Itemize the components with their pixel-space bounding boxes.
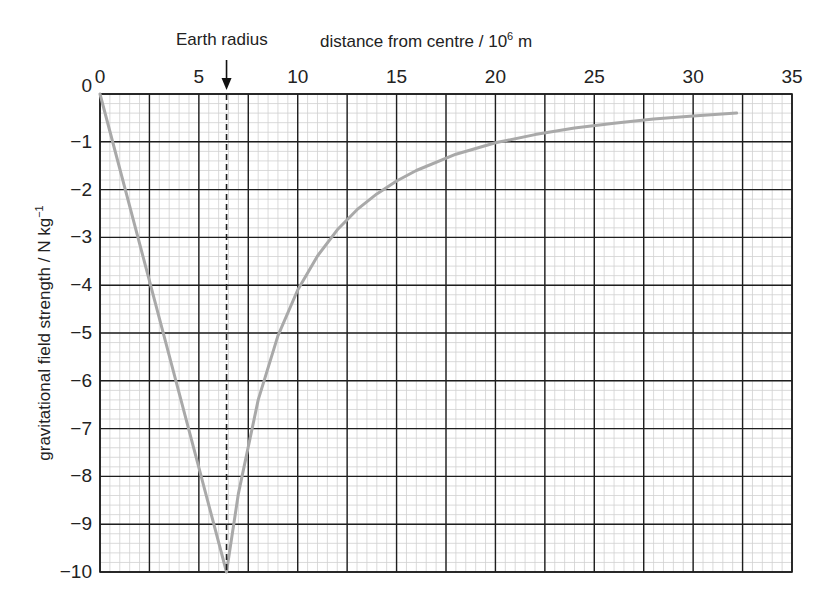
y-tick-label: −6	[32, 370, 92, 392]
x-tick-label: 30	[683, 66, 704, 88]
x-tick-label: 35	[781, 66, 802, 88]
x-tick-label: 15	[386, 66, 407, 88]
x-tick-label: 20	[485, 66, 506, 88]
y-tick-label: −5	[32, 322, 92, 344]
x-tick-label: 10	[287, 66, 308, 88]
x-axis-title: distance from centre / 106 m	[320, 30, 532, 52]
y-tick-label: −1	[32, 131, 92, 153]
y-tick-label: −4	[32, 274, 92, 296]
major-grid	[100, 94, 792, 572]
earth-radius-annotation: Earth radius	[176, 30, 268, 50]
x-axis-title-unit: m	[513, 32, 532, 51]
y-tick-label: 0	[32, 75, 92, 97]
y-tick-label: −7	[32, 418, 92, 440]
chart-canvas	[0, 0, 823, 602]
x-tick-label: 5	[194, 66, 205, 88]
y-axis-title-exponent: −1	[33, 205, 45, 218]
y-tick-label: −8	[32, 465, 92, 487]
x-axis-title-main: distance from centre / 10	[320, 32, 507, 51]
y-tick-label: −10	[32, 561, 92, 583]
y-tick-label: −2	[32, 179, 92, 201]
x-tick-label: 25	[584, 66, 605, 88]
x-tick-label: 0	[95, 66, 106, 88]
y-tick-label: −9	[32, 513, 92, 535]
y-tick-label: −3	[32, 226, 92, 248]
